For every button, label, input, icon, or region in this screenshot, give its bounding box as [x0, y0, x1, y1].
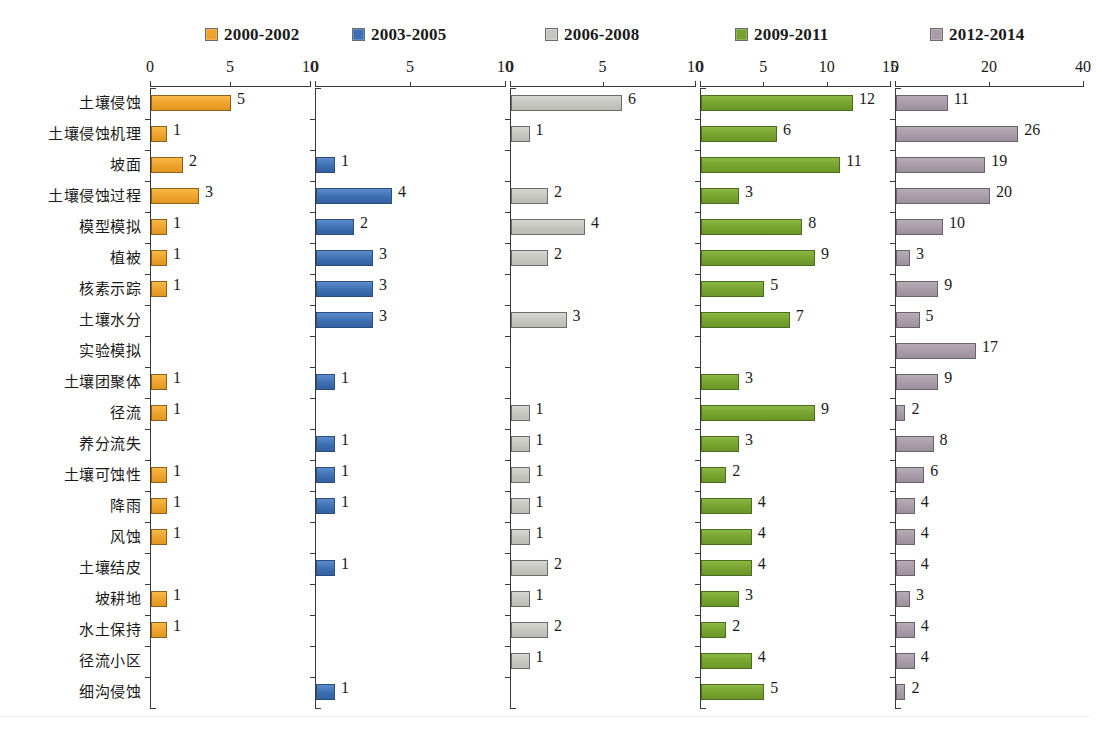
bar[interactable] — [701, 467, 726, 483]
bar-value-label: 3 — [745, 183, 753, 201]
bar[interactable] — [896, 374, 938, 390]
bar[interactable] — [316, 157, 335, 173]
bar[interactable] — [896, 312, 920, 328]
bar[interactable] — [701, 405, 815, 421]
bar[interactable] — [896, 560, 915, 576]
bar-row: 4 — [895, 646, 1096, 677]
bar[interactable] — [151, 157, 183, 173]
bar[interactable] — [701, 95, 853, 111]
bar-row: 8 — [895, 429, 1096, 460]
bar[interactable] — [896, 405, 905, 421]
bar[interactable] — [896, 653, 915, 669]
bar[interactable] — [701, 188, 739, 204]
bar[interactable] — [316, 560, 335, 576]
bar[interactable] — [896, 498, 915, 514]
bar[interactable] — [151, 374, 167, 390]
bar[interactable] — [896, 126, 1018, 142]
bar[interactable] — [511, 622, 548, 638]
bar-value-label: 9 — [821, 400, 829, 418]
bar[interactable] — [316, 684, 335, 700]
value-axis-tick — [410, 82, 411, 87]
bar[interactable] — [511, 560, 548, 576]
bar[interactable] — [896, 95, 948, 111]
legend-item-2009-2011[interactable]: 2009-2011 — [735, 26, 829, 43]
bar[interactable] — [151, 591, 167, 607]
legend-item-2000-2002[interactable]: 2000-2002 — [205, 26, 299, 43]
value-axis: 02040 — [895, 58, 1096, 88]
bar[interactable] — [701, 622, 726, 638]
bar[interactable] — [896, 467, 924, 483]
bar[interactable] — [316, 219, 354, 235]
bar[interactable] — [896, 684, 905, 700]
bar-value-label: 2 — [554, 555, 562, 573]
bar[interactable] — [896, 343, 976, 359]
legend-item-2012-2014[interactable]: 2012-2014 — [930, 26, 1024, 43]
bar[interactable] — [316, 436, 335, 452]
bar[interactable] — [701, 529, 752, 545]
bar-value-label: 2 — [732, 462, 740, 480]
bar[interactable] — [316, 498, 335, 514]
legend-item-2006-2008[interactable]: 2006-2008 — [545, 26, 639, 43]
bar[interactable] — [316, 467, 335, 483]
bar-value-label: 3 — [379, 276, 387, 294]
bar-row: 4 — [895, 553, 1096, 584]
bar[interactable] — [511, 529, 530, 545]
bar[interactable] — [151, 498, 167, 514]
bar[interactable] — [151, 467, 167, 483]
bar[interactable] — [511, 436, 530, 452]
legend-label: 2003-2005 — [371, 26, 446, 43]
bar[interactable] — [151, 126, 167, 142]
bar[interactable] — [896, 219, 943, 235]
bar[interactable] — [151, 281, 167, 297]
bar[interactable] — [701, 312, 790, 328]
bar[interactable] — [701, 560, 752, 576]
bar[interactable] — [701, 126, 777, 142]
bar[interactable] — [701, 436, 739, 452]
bar[interactable] — [896, 436, 934, 452]
bar[interactable] — [701, 591, 739, 607]
bar[interactable] — [701, 157, 840, 173]
bar[interactable] — [896, 622, 915, 638]
bar[interactable] — [701, 219, 802, 235]
bar[interactable] — [701, 498, 752, 514]
bar[interactable] — [151, 529, 167, 545]
bar[interactable] — [151, 95, 231, 111]
bar[interactable] — [896, 188, 990, 204]
bar[interactable] — [511, 188, 548, 204]
bar[interactable] — [511, 591, 530, 607]
bar[interactable] — [151, 188, 199, 204]
bar[interactable] — [151, 622, 167, 638]
bar[interactable] — [316, 250, 373, 266]
category-axis-tick — [895, 708, 901, 709]
bar[interactable] — [896, 591, 910, 607]
bar[interactable] — [896, 250, 910, 266]
legend-item-2003-2005[interactable]: 2003-2005 — [352, 26, 446, 43]
bar[interactable] — [316, 312, 373, 328]
bar[interactable] — [151, 250, 167, 266]
bar[interactable] — [511, 498, 530, 514]
bar[interactable] — [151, 405, 167, 421]
bar-value-label: 1 — [173, 524, 181, 542]
bar[interactable] — [896, 281, 938, 297]
bar[interactable] — [701, 653, 752, 669]
bar[interactable] — [511, 126, 530, 142]
bar[interactable] — [511, 250, 548, 266]
bar[interactable] — [511, 312, 567, 328]
bar[interactable] — [316, 188, 392, 204]
bar[interactable] — [701, 684, 764, 700]
bar[interactable] — [511, 219, 585, 235]
bar[interactable] — [896, 157, 985, 173]
bar-value-label: 1 — [173, 214, 181, 232]
bar[interactable] — [151, 219, 167, 235]
bar[interactable] — [316, 281, 373, 297]
bar[interactable] — [316, 374, 335, 390]
bar[interactable] — [511, 95, 622, 111]
bar[interactable] — [896, 529, 915, 545]
bar[interactable] — [511, 467, 530, 483]
bar[interactable] — [701, 374, 739, 390]
bar[interactable] — [511, 405, 530, 421]
value-axis-tick — [505, 81, 506, 87]
bar[interactable] — [701, 281, 764, 297]
bar[interactable] — [701, 250, 815, 266]
bar[interactable] — [511, 653, 530, 669]
